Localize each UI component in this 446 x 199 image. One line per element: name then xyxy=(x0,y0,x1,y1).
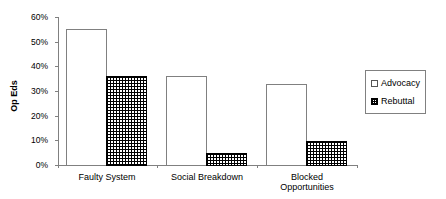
bar-advocacy-faulty-system xyxy=(66,29,107,166)
legend: Advocacy Rebuttal xyxy=(365,70,426,114)
y-tick-30: 30% xyxy=(14,86,48,96)
x-tick-mark xyxy=(357,165,358,168)
bar-rebuttal-blocked-opportunities xyxy=(306,141,347,166)
y-tick-0: 0% xyxy=(14,160,48,170)
x-label-opportunities: Opportunities xyxy=(257,182,357,193)
legend-item-advocacy: Advocacy xyxy=(371,78,420,88)
legend-item-rebuttal: Rebuttal xyxy=(371,96,415,106)
x-tick-mark xyxy=(58,165,59,168)
legend-label: Rebuttal xyxy=(381,96,415,106)
y-axis xyxy=(58,17,59,166)
x-tick-mark xyxy=(157,165,158,168)
x-tick-mark xyxy=(257,165,258,168)
advocacy-swatch-icon xyxy=(371,80,378,87)
y-tick-60: 60% xyxy=(14,12,48,22)
rebuttal-swatch-icon xyxy=(371,98,378,105)
bar-rebuttal-faulty-system xyxy=(106,76,147,166)
y-tick-40: 40% xyxy=(14,61,48,71)
y-tick-10: 10% xyxy=(14,135,48,145)
legend-label: Advocacy xyxy=(381,78,420,88)
bar-rebuttal-social-breakdown xyxy=(206,153,247,166)
x-label-faulty-system: Faulty System xyxy=(57,172,157,183)
y-tick-20: 20% xyxy=(14,111,48,121)
y-tick-50: 50% xyxy=(14,37,48,47)
x-label-social-breakdown: Social Breakdown xyxy=(157,172,257,183)
bar-advocacy-social-breakdown xyxy=(166,76,207,166)
bar-advocacy-blocked-opportunities xyxy=(266,84,307,166)
